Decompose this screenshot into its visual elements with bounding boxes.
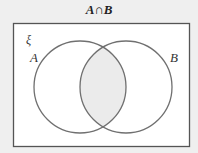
set-b-label: B (170, 50, 178, 65)
set-a-label: A (29, 50, 38, 65)
venn-diagram: A∩B ξ A B (0, 0, 198, 153)
universal-set-label: ξ (26, 33, 32, 47)
venn-svg: ξ A B (0, 0, 198, 153)
